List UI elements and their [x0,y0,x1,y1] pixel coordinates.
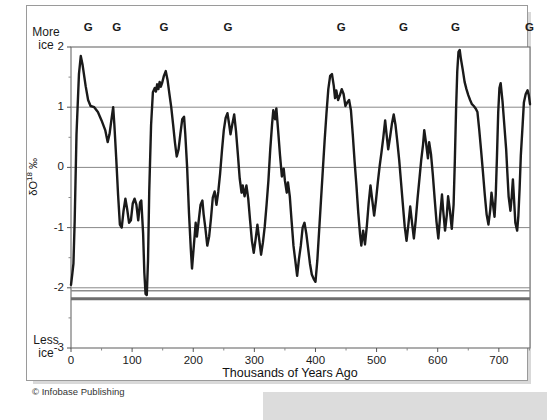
glacial-marker: G [220,21,236,33]
x-tick-label: 100 [112,354,152,366]
glacial-marker: G [333,21,349,33]
y-tick-label: 1 [38,100,64,112]
publisher-credit: © Infobase Publishing [32,386,125,397]
glacial-marker: G [109,21,125,33]
y-tick-label: -2 [38,281,64,293]
y-tick-label: -1 [38,221,64,233]
x-axis-title: Thousands of Years Ago [160,366,420,380]
y-axis-element: O [27,181,39,190]
y-axis-mass: 18 [25,172,34,181]
x-tick-label: 600 [418,354,458,366]
glacial-marker: G [447,21,463,33]
glacial-marker: G [80,21,96,33]
y-axis-delta: δ [27,190,39,196]
y-tick-label: 2 [38,40,64,52]
y-tick-label: 0 [38,160,64,172]
glacial-marker: G [395,21,411,33]
x-tick-label: 700 [479,354,519,366]
more-ice-line1: More [32,25,59,39]
glacial-marker: G [521,21,537,33]
glacial-marker: G [156,21,172,33]
x-tick-label: 200 [173,354,213,366]
figure-container: More ice Less ice δO18 ‰ Thousands of Ye… [0,0,547,420]
x-tick-label: 300 [234,354,274,366]
y-axis-title: δO18 ‰ [25,137,39,217]
x-tick-label: 500 [357,354,397,366]
bottom-gray-band [263,392,547,420]
x-tick-label: 0 [51,354,91,366]
y-tick-label: -3 [38,341,64,353]
x-tick-label: 400 [295,354,335,366]
plot-frame [71,47,530,348]
